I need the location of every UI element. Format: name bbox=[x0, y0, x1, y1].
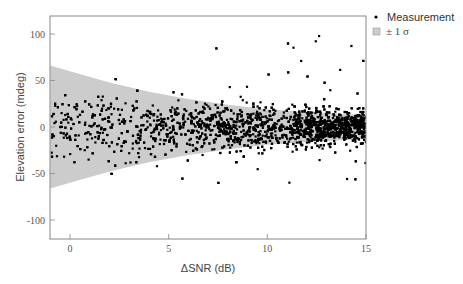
legend-label-measurement: Measurement bbox=[387, 11, 454, 23]
plot-area bbox=[50, 35, 367, 188]
x-axis-ticks: 051015 bbox=[68, 234, 372, 254]
y-tick-label: 50 bbox=[35, 75, 45, 86]
y-tick-label: -100 bbox=[27, 215, 45, 226]
legend-dot-icon bbox=[374, 15, 377, 18]
x-tick-label: 0 bbox=[68, 243, 73, 254]
legend: Measurement ± 1 σ bbox=[373, 11, 454, 37]
x-tick-label: 10 bbox=[262, 243, 272, 254]
y-axis-ticks: 100500-50-100 bbox=[27, 29, 55, 226]
y-tick-label: 0 bbox=[40, 122, 45, 133]
y-axis-label: Elevation error (mdeg) bbox=[14, 72, 26, 181]
y-tick-label: -50 bbox=[32, 168, 45, 179]
x-tick-label: 5 bbox=[166, 243, 171, 254]
x-tick-label: 15 bbox=[361, 243, 371, 254]
legend-square-icon bbox=[373, 28, 380, 35]
y-tick-label: 100 bbox=[30, 29, 45, 40]
legend-label-sigma: ± 1 σ bbox=[386, 25, 409, 37]
scatter-chart: 100500-50-100 051015 ΔSNR (dB) Elevation… bbox=[0, 0, 463, 284]
x-axis-label: ΔSNR (dB) bbox=[181, 262, 235, 274]
